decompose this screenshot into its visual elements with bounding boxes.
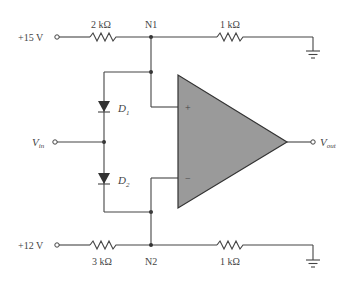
top-rail xyxy=(55,33,320,58)
label-vin: Vin xyxy=(32,136,45,150)
label-n2: N2 xyxy=(145,256,157,267)
label-r-1k-top: 1 kΩ xyxy=(220,19,240,30)
resistor-1k-bottom xyxy=(217,241,245,249)
terminal-vout xyxy=(311,140,315,144)
resistor-3k xyxy=(90,241,118,249)
opamp-minus: − xyxy=(185,173,191,184)
label-d2: D2 xyxy=(117,174,130,189)
diode-d1-icon xyxy=(98,101,110,112)
label-15v: +15 V xyxy=(18,32,44,43)
terminal-12v xyxy=(55,243,59,247)
label-r-2k: 2 kΩ xyxy=(91,19,111,30)
ground-icon-top xyxy=(306,51,320,58)
label-12v: +12 V xyxy=(18,240,44,251)
ground-icon-bottom xyxy=(306,260,320,267)
resistor-2k xyxy=(90,33,118,41)
opamp-triangle xyxy=(178,75,287,208)
label-r-3k: 3 kΩ xyxy=(92,256,112,267)
label-d1: D1 xyxy=(117,102,129,117)
circuit-diagram: + − +15 V +12 V 2 kΩ 1 kΩ 3 kΩ 1 kΩ N1 N… xyxy=(0,0,353,285)
node-n2-dot xyxy=(149,243,153,247)
diode-d2-icon xyxy=(98,173,110,184)
label-r-1k-bottom: 1 kΩ xyxy=(220,256,240,267)
opamp-plus: + xyxy=(185,102,191,113)
resistor-1k-top xyxy=(217,33,245,41)
terminal-15v xyxy=(55,35,59,39)
terminal-vin xyxy=(53,140,57,144)
label-vout: Vout xyxy=(320,136,337,150)
label-n1: N1 xyxy=(145,19,157,30)
